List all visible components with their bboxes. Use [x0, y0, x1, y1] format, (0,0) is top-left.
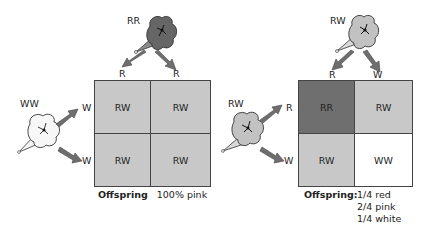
- right-top-gamete-1: R: [329, 70, 336, 80]
- arrow-icon: [54, 106, 80, 128]
- left-side-gamete-1: W: [82, 103, 91, 113]
- punnett-cell: RW: [299, 134, 355, 186]
- arrow-icon: [120, 50, 150, 70]
- cell-genotype: RW: [115, 102, 131, 113]
- cell-genotype: WW: [374, 155, 393, 166]
- cell-genotype: RW: [376, 102, 392, 113]
- punnett-cell: RW: [95, 81, 151, 134]
- punnett-cell: RW: [151, 81, 210, 134]
- offspring-ratio-list: 1/4 red 2/4 pink 1/4 white: [357, 189, 401, 225]
- right-punnett-square: RR RW RW WW: [298, 80, 413, 187]
- right-top-gamete-2: W: [373, 70, 382, 80]
- right-side-gamete-2: W: [284, 156, 293, 166]
- right-offspring-caption: Offspring:: [304, 189, 358, 201]
- cell-genotype: RW: [115, 155, 131, 166]
- left-top-gamete-1: R: [119, 69, 126, 79]
- punnett-cell: RW: [151, 134, 210, 186]
- left-top-gamete-2: R: [173, 69, 180, 79]
- left-side-parent-label: WW: [20, 99, 39, 109]
- punnett-cell: RW: [95, 134, 151, 186]
- punnett-cell: RR: [299, 81, 355, 134]
- right-side-gamete-1: R: [286, 103, 293, 113]
- left-punnett-square: RW RW RW RW: [94, 80, 211, 187]
- offspring-label: Offspring:: [304, 189, 358, 200]
- offspring-label: Offspring: [98, 189, 148, 200]
- arrow-icon: [58, 145, 84, 165]
- cell-genotype: RW: [173, 102, 189, 113]
- cell-genotype: RW: [173, 155, 189, 166]
- punnett-cell: WW: [355, 134, 412, 186]
- arrow-icon: [258, 102, 284, 124]
- left-offspring-caption: Offspring 100% pink: [98, 189, 207, 201]
- offspring-ratio-red: 1/4 red: [357, 189, 401, 201]
- punnett-cell: RW: [355, 81, 412, 134]
- cell-genotype: RR: [320, 102, 333, 113]
- offspring-ratio-white: 1/4 white: [357, 213, 401, 225]
- cell-genotype: RW: [319, 155, 335, 166]
- left-side-gamete-2: W: [82, 156, 91, 166]
- offspring-ratio: 100% pink: [157, 189, 207, 200]
- arrow-icon: [260, 145, 286, 165]
- offspring-ratio-pink: 2/4 pink: [357, 201, 401, 213]
